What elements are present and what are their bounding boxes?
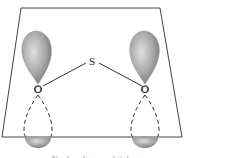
left-oxygen-label: O: [34, 83, 42, 95]
left-upper-lobe: [22, 31, 52, 84]
molecular-plane: [2, 8, 182, 137]
left-lower-lobe-dashed: [24, 95, 52, 137]
sulfur-label: S: [89, 55, 95, 67]
bond-left: [43, 63, 86, 86]
right-upper-lobe: [130, 31, 160, 84]
right-lower-lobe-dashed: [131, 95, 159, 137]
left-lower-lobe-tip: [25, 138, 51, 148]
orbital-diagram: O O S Nonbonding p orbitals: [0, 0, 227, 158]
caption: Nonbonding p orbitals: [52, 154, 133, 158]
right-oxygen-label: O: [141, 83, 149, 95]
right-lower-lobe-tip: [132, 138, 158, 148]
